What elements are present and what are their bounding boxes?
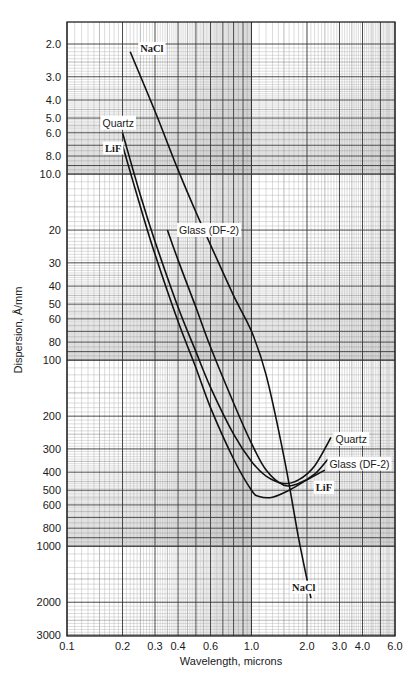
x-tick-label: 0.6 [203,640,218,652]
y-tick-label: 10.0 [40,168,61,180]
curve-label-glass-df-2-: Glass (DF-2) [179,224,239,236]
x-tick-label: 3.0 [332,640,347,652]
y-tick-label: 6.0 [46,127,61,139]
grid-minor [67,22,395,636]
y-tick-label: 400 [43,466,61,478]
y-tick-label: 50 [49,298,61,310]
y-tick-label: 80 [49,336,61,348]
curve-label-nacl: NaCl [140,43,163,54]
x-tick-label: 0.3 [147,640,162,652]
curve-label-lif: LiF [105,143,121,154]
y-tick-label: 20 [49,224,61,236]
y-tick-label: 1000 [37,540,61,552]
x-tick-label: 1.0 [244,640,259,652]
y-tick-label: 2.0 [46,38,61,50]
y-tick-label: 8.0 [46,150,61,162]
y-tick-label: 300 [43,443,61,455]
x-tick-label: 0.1 [59,640,74,652]
x-tick-label: 0.2 [115,640,130,652]
y-axis-title: Dispersion, Å/mm [12,287,24,374]
x-tick-label: 6.0 [387,640,402,652]
curve-label-lif: LiF [316,482,332,493]
y-tick-label: 3000 [37,629,61,641]
y-tick-label: 2000 [37,596,61,608]
y-tick-label: 800 [43,522,61,534]
y-tick-label: 60 [49,313,61,325]
y-tick-label: 5.0 [46,112,61,124]
x-axis-ticks: 0.10.20.30.40.61.02.03.04.06.0 [59,640,402,652]
x-tick-label: 0.4 [170,640,185,652]
x-tick-label: 4.0 [355,640,370,652]
y-axis-ticks: 2.03.04.05.06.08.010.0203040506080100200… [37,38,61,641]
y-tick-label: 100 [43,354,61,366]
x-axis-title: Wavelength, microns [180,655,283,667]
curve-label-quartz: Quartz [102,117,134,129]
curve-label-nacl: NaCl [292,582,315,593]
curve-label-glass-df-2-: Glass (DF-2) [329,458,389,470]
y-tick-label: 40 [49,280,61,292]
curve-label-quartz: Quartz [336,433,368,445]
y-tick-label: 500 [43,484,61,496]
y-tick-label: 30 [49,257,61,269]
y-tick-label: 200 [43,410,61,422]
y-tick-label: 3.0 [46,71,61,83]
dispersion-chart: NaClNaClQuartzQuartzLiFLiFGlass (DF-2)Gl… [0,0,420,685]
y-tick-label: 4.0 [46,94,61,106]
curve-labels: NaClNaClQuartzQuartzLiFLiFGlass (DF-2)Gl… [100,42,391,594]
x-tick-label: 2.0 [299,640,314,652]
y-tick-label: 600 [43,499,61,511]
